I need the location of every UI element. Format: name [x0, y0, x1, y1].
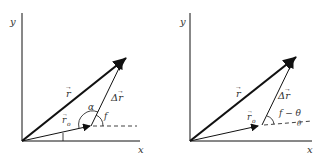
r0-label: r o →	[62, 111, 71, 127]
right-diagram: y x r → r o → Δr → f − θ θ	[179, 13, 313, 155]
y-axis-label: y	[179, 16, 186, 27]
phi-minus-theta-label: f − θ	[278, 108, 302, 118]
svg-text:→: →	[65, 83, 72, 91]
vector-diagrams: y x r → r o → Δr → α f	[0, 0, 325, 160]
alpha-label: α	[88, 102, 94, 112]
r-label: r →	[65, 83, 72, 99]
delta-r-label: Δr →	[110, 87, 124, 103]
svg-text:→: →	[284, 85, 291, 93]
svg-text:→: →	[62, 111, 68, 117]
svg-text:o: o	[252, 117, 256, 124]
theta-small-label: θ	[297, 120, 302, 128]
phi-arc	[96, 115, 103, 126]
y-axis-label: y	[9, 16, 16, 27]
alpha-arc	[79, 111, 98, 128]
svg-text:→: →	[235, 83, 242, 91]
svg-text:→: →	[247, 108, 253, 114]
svg-text:o: o	[67, 120, 71, 127]
phi-label: f	[103, 111, 109, 121]
dashed-reference-line	[264, 121, 312, 125]
delta-r-label: Δr →	[277, 85, 291, 101]
svg-text:→: →	[117, 87, 124, 95]
x-axis-label: x	[307, 144, 313, 155]
r0-label: r o →	[247, 108, 256, 124]
x-axis-label: x	[138, 144, 144, 155]
phi-minus-theta-arc	[267, 116, 274, 124]
left-diagram: y x r → r o → Δr → α f	[9, 13, 144, 155]
r-label: r →	[235, 83, 242, 99]
